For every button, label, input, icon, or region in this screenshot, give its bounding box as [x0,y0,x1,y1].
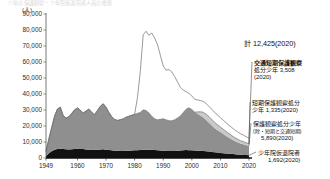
x-tick-label: 2000 [179,162,205,169]
y-tick-label: 80,000 [0,26,42,33]
y-tick-label: 60,000 [0,58,42,65]
annotation-leader-line [249,152,256,155]
y-tick-label: 70,000 [0,42,42,49]
x-tick-label: 2010 [207,162,233,169]
y-tick-label: 90,000 [0,10,42,17]
y-tick-label: 0 [0,154,42,161]
y-tick-label: 40,000 [0,90,42,97]
x-tick-label: 1970 [93,162,119,169]
y-tick-label: 30,000 [0,106,42,113]
y-tick-label: 10,000 [0,138,42,145]
x-tick-label: 1960 [64,162,90,169]
x-tick-label: 1949 [33,162,59,169]
x-tick-label: 1990 [150,162,176,169]
x-tick-label: 2020 [236,162,262,169]
y-tick-label: 50,000 [0,74,42,81]
chart-root: 少年の保護観察・少年院仮退院者人員の推移 (人) 010,00020,00030… [0,0,330,179]
x-tick-label: 1980 [122,162,148,169]
y-tick-label: 20,000 [0,122,42,129]
total-annotation: 計 12,425(2020) [244,40,296,48]
